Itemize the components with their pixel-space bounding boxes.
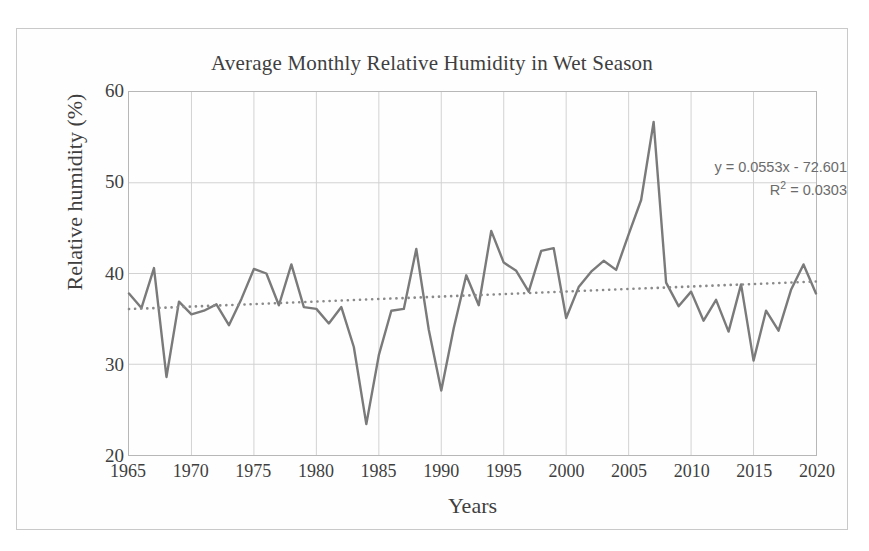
x-tick-1965: 1965 [110, 461, 146, 482]
chart-title: Average Monthly Relative Humidity in Wet… [17, 51, 847, 76]
y-axis-tick-labels: 2030405060 [72, 91, 124, 456]
x-tick-1980: 1980 [298, 461, 334, 482]
y-tick-40: 40 [78, 264, 124, 283]
y-tick-50: 50 [78, 172, 124, 191]
y-tick-30: 30 [78, 355, 124, 374]
r-squared-symbol: R [770, 182, 780, 198]
figure-frame: Average Monthly Relative Humidity in Wet… [16, 28, 848, 530]
plot-area [128, 91, 817, 456]
x-tick-1970: 1970 [173, 461, 209, 482]
trendline-equation-annotation: y = 0.0553x - 72.601 R2 = 0.0303 [677, 157, 847, 201]
trendline-equation: y = 0.0553x - 72.601 [677, 157, 847, 178]
x-tick-1985: 1985 [361, 461, 397, 482]
x-tick-2005: 2005 [611, 461, 647, 482]
trendline-r-squared: R2 = 0.0303 [677, 178, 847, 201]
y-tick-60: 60 [78, 81, 124, 100]
r-squared-value: = 0.0303 [786, 182, 847, 198]
x-tick-2020: 2020 [799, 461, 835, 482]
x-tick-2015: 2015 [736, 461, 772, 482]
x-tick-2000: 2000 [548, 461, 584, 482]
x-axis-label: Years [128, 493, 817, 519]
data-series-layer [129, 92, 816, 455]
x-tick-2010: 2010 [674, 461, 710, 482]
x-axis-tick-labels: 1965197019751980198519901995200020052010… [128, 461, 817, 489]
x-tick-1975: 1975 [235, 461, 271, 482]
x-tick-1990: 1990 [423, 461, 459, 482]
x-tick-1995: 1995 [486, 461, 522, 482]
